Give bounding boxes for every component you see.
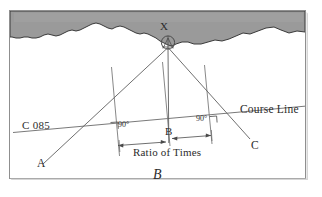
angle-right-label: 90° [196, 115, 207, 123]
ratio-of-times-label: Ratio of Times [133, 147, 201, 158]
figure-caption: B [153, 168, 162, 182]
course-designation-label: C 085 [22, 120, 50, 131]
point-a-label: A [37, 158, 45, 170]
course-line-label: Course Line [240, 104, 299, 116]
point-c-label: C [251, 140, 259, 152]
landmass-texture [14, 13, 303, 22]
point-b-label: B [165, 126, 172, 137]
station-x-label: X [160, 21, 168, 32]
figure-container: C 085 Course Line X A B C 90° 90° Ratio … [0, 0, 322, 197]
angle-left-label: 90° [118, 121, 129, 129]
